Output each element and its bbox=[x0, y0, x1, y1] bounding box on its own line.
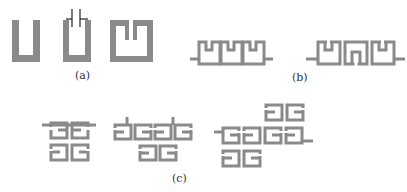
resonator-array-2 bbox=[115, 117, 191, 160]
capacitor-symbol bbox=[66, 9, 88, 27]
resonator-chain-2 bbox=[306, 42, 405, 64]
figure-drawing bbox=[0, 0, 407, 192]
panel-label-c: (c) bbox=[172, 173, 187, 185]
u-resonator bbox=[12, 20, 40, 62]
resonator-chain-1 bbox=[190, 42, 273, 64]
panel-label-a: (a) bbox=[75, 70, 90, 82]
panel-label-b: (b) bbox=[292, 72, 308, 84]
capacitor-loaded-u-resonator bbox=[63, 20, 91, 62]
resonator-array-3 bbox=[214, 105, 313, 166]
figure-canvas: (a) (b) (c) bbox=[0, 0, 407, 192]
